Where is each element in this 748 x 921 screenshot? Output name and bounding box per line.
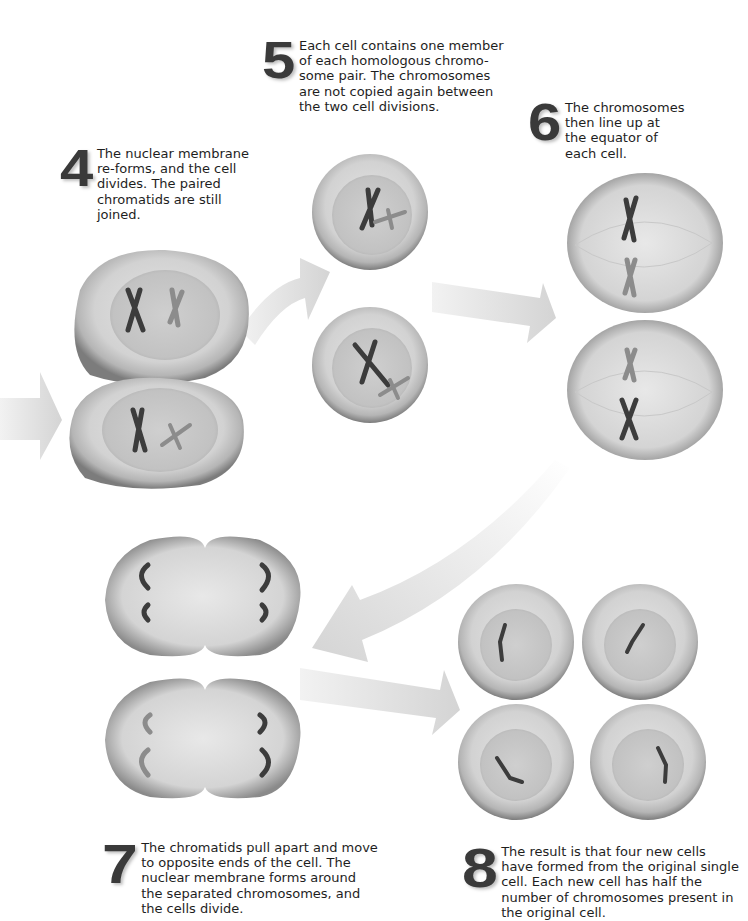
stage-number: 5 [262,38,295,82]
stage-description: Each cell contains one member of each ho… [299,38,504,114]
stage-description: The nuclear membrane re-forms, and the c… [97,146,249,222]
stage8-cells [458,584,706,820]
stage-4-label: 4 The nuclear membrane re-forms, and the… [60,146,249,222]
stage-5-label: 5 Each cell contains one member of each … [262,38,504,114]
stage-description: The result is that four new cells have f… [501,844,739,920]
stage-description: The chromatids pull apart and move to op… [141,840,378,916]
stage5-cells [312,154,428,423]
stage-number: 7 [102,840,138,888]
stage-number: 8 [462,844,498,892]
stage6-cells [567,173,723,460]
arrow-into-stage4 [0,372,62,460]
stage-6-label: 6 The chromosomes then line up at the eq… [528,100,684,161]
stage-8-label: 8 The result is that four new cells have… [462,844,739,920]
arrow-stage5-to-stage6 [432,282,556,343]
arrow-stage7-to-stage8 [300,668,460,735]
stage-description: The chromosomes then line up at the equa… [565,100,685,161]
stage7-cells [105,536,301,798]
arrow-stage4-to-stage5 [240,258,330,345]
stage4-cells [69,250,248,489]
stage-number: 4 [60,146,93,190]
stage-7-label: 7 The chromatids pull apart and move to … [102,840,378,916]
stage-number: 6 [528,100,561,144]
